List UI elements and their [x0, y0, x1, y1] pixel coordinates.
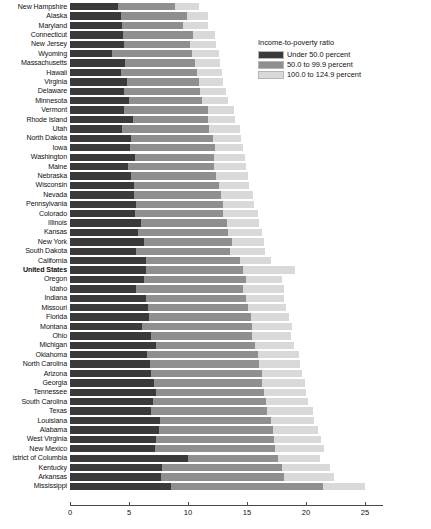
bar-row-label: Massachusetts — [0, 59, 70, 67]
stacked-bar — [70, 360, 300, 367]
stacked-bar — [70, 445, 324, 452]
stacked-bar — [70, 12, 208, 19]
bar-row: New York — [0, 237, 431, 246]
bar-segment — [70, 248, 136, 255]
bar-segment — [151, 370, 262, 377]
bar-segment — [136, 201, 223, 208]
bar-row: South Dakota — [0, 247, 431, 256]
bar-row: United States — [0, 265, 431, 274]
bar-segment — [208, 116, 235, 123]
stacked-bar — [70, 342, 294, 349]
bar-segment — [70, 238, 144, 245]
bar-row-label: Nebraska — [0, 172, 70, 180]
bar-row-label: Alaska — [0, 12, 70, 20]
bar-segment — [136, 248, 230, 255]
bar-segment — [154, 379, 263, 386]
stacked-bar — [70, 417, 314, 424]
stacked-bar — [70, 59, 220, 66]
bar-row-label: Missouri — [0, 304, 70, 312]
bar-segment — [70, 154, 135, 161]
bar-segment — [223, 210, 257, 217]
bar-segment — [70, 295, 146, 302]
bar-segment — [70, 426, 159, 433]
legend-label: Under 50.0 percent — [287, 50, 350, 59]
bar-segment — [147, 351, 258, 358]
bar-segment — [209, 125, 240, 132]
stacked-bar — [70, 398, 308, 405]
bar-row: Montana — [0, 322, 431, 331]
bar-row: Idaho — [0, 284, 431, 293]
legend-swatch — [258, 61, 284, 69]
bar-segment — [70, 97, 129, 104]
bar-segment — [262, 370, 302, 377]
bar-row: Louisiana — [0, 416, 431, 425]
x-axis-tick — [188, 502, 189, 506]
stacked-bar — [70, 464, 330, 471]
bar-row-label: Utah — [0, 125, 70, 133]
bar-segment — [138, 229, 228, 236]
bar-segment — [199, 78, 224, 85]
bar-row: istrict of Columbia — [0, 454, 431, 463]
bar-segment — [70, 455, 188, 462]
bar-segment — [162, 464, 282, 471]
bar-row-label: Hawaii — [0, 69, 70, 77]
bar-segment — [146, 266, 244, 273]
stacked-bar — [70, 370, 302, 377]
bar-segment — [259, 360, 300, 367]
stacked-bar — [70, 455, 320, 462]
bar-segment — [243, 266, 295, 273]
bar-segment — [129, 97, 202, 104]
stacked-bar — [70, 97, 228, 104]
x-axis-tick — [306, 502, 307, 506]
stacked-bar — [70, 313, 289, 320]
bar-row-label: Georgia — [0, 379, 70, 387]
bar-segment — [219, 182, 250, 189]
bar-segment — [70, 389, 156, 396]
bar-row-label: New Mexico — [0, 445, 70, 453]
bar-segment — [70, 360, 150, 367]
bar-segment — [70, 473, 161, 480]
bar-segment — [141, 219, 227, 226]
bar-segment — [127, 78, 199, 85]
bar-segment — [70, 464, 162, 471]
bar-segment — [130, 144, 215, 151]
x-axis-tick — [70, 502, 71, 506]
bar-row: Maine — [0, 162, 431, 171]
x-axis-tick-label: 25 — [361, 508, 369, 517]
bar-segment — [128, 163, 214, 170]
stacked-bar — [70, 295, 284, 302]
bar-segment — [70, 351, 147, 358]
bar-segment — [70, 323, 142, 330]
bar-segment — [122, 22, 183, 29]
bar-row-label: Michigan — [0, 341, 70, 349]
bar-segment — [70, 12, 121, 19]
bar-row: Utah — [0, 124, 431, 133]
x-axis-tick — [129, 502, 130, 506]
stacked-bar — [70, 22, 208, 29]
bar-segment — [70, 229, 138, 236]
bar-segment — [171, 483, 322, 490]
bar-row-label: Oklahoma — [0, 351, 70, 359]
bar-segment — [134, 182, 219, 189]
stacked-bar — [70, 323, 292, 330]
bar-segment — [131, 135, 212, 142]
bar-segment — [146, 295, 246, 302]
x-axis-tick — [247, 502, 248, 506]
bar-segment — [183, 22, 208, 29]
bar-segment — [112, 50, 191, 57]
bar-row: Arkansas — [0, 472, 431, 481]
stacked-bar — [70, 257, 271, 264]
bar-segment — [153, 398, 266, 405]
bar-segment — [156, 436, 274, 443]
bar-segment — [70, 304, 148, 311]
bar-row-label: South Dakota — [0, 247, 70, 255]
bar-segment — [193, 31, 215, 38]
legend-label: 50.0 to 99.9 percent — [287, 60, 353, 69]
bar-row-label: Virginia — [0, 78, 70, 86]
stacked-bar — [70, 50, 219, 57]
bar-segment — [243, 285, 283, 292]
bar-row: Washington — [0, 153, 431, 162]
bar-segment — [70, 59, 125, 66]
bar-segment — [121, 69, 198, 76]
bar-row-label: New Hampshire — [0, 3, 70, 11]
